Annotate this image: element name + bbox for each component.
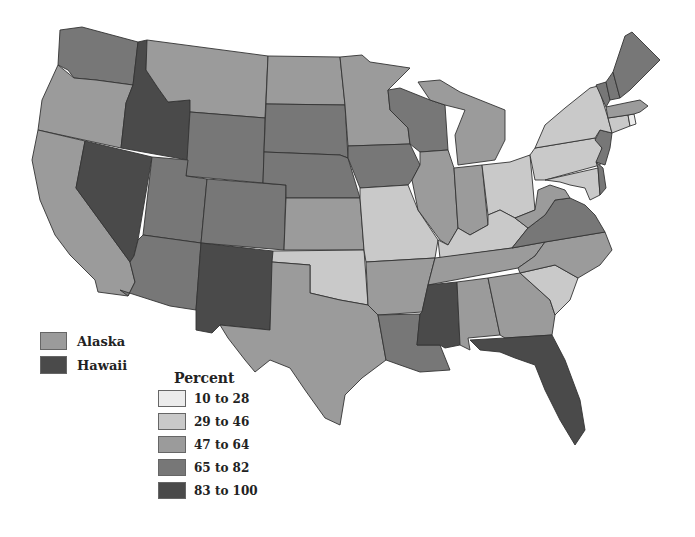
state-CO <box>201 179 286 250</box>
legend-label: 10 to 28 <box>194 392 249 406</box>
legend-item: 65 to 82 <box>158 459 249 476</box>
state-ME <box>613 32 660 98</box>
legend-item: 29 to 46 <box>158 413 249 430</box>
legend-swatch <box>158 459 186 476</box>
legend-label: 65 to 82 <box>194 461 249 475</box>
state-FL <box>470 335 585 445</box>
legend-swatch <box>158 482 186 499</box>
alaska-label: Alaska <box>77 334 125 349</box>
alaska-swatch <box>40 332 67 350</box>
state-SD <box>264 104 348 158</box>
state-IA <box>348 144 420 188</box>
hawaii-swatch <box>40 356 67 374</box>
state-WY <box>186 112 265 183</box>
inset-legend-hawaii: Hawaii <box>40 356 127 374</box>
legend-item: 10 to 28 <box>158 390 249 407</box>
legend-item: 83 to 100 <box>158 482 258 499</box>
state-NM <box>196 243 273 333</box>
legend-swatch <box>158 436 186 453</box>
state-KS <box>284 198 364 250</box>
legend-label: 29 to 46 <box>194 415 249 429</box>
legend-swatch <box>158 390 186 407</box>
legend-item: 47 to 64 <box>158 436 249 453</box>
inset-legend-alaska: Alaska <box>40 332 125 350</box>
legend-label: 83 to 100 <box>194 484 258 498</box>
state-MA <box>606 100 648 118</box>
hawaii-label: Hawaii <box>77 358 127 373</box>
state-ND <box>266 56 345 105</box>
state-OH <box>482 155 535 218</box>
legend-title: Percent <box>174 370 235 386</box>
us-choropleth-map <box>0 0 695 537</box>
legend-swatch <box>158 413 186 430</box>
legend-label: 47 to 64 <box>194 438 249 452</box>
